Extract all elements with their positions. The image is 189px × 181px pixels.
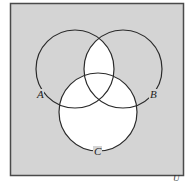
set-c-label: C (94, 145, 102, 157)
set-b-label: B (150, 88, 157, 100)
set-a-label: A (36, 88, 44, 100)
universe-label: U (173, 173, 180, 181)
venn-diagram: A B C U (0, 0, 189, 181)
